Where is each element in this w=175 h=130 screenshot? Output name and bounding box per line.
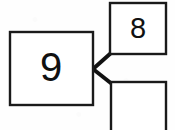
diagram-canvas: 9 8 <box>0 0 175 130</box>
connector-to-bottom-part <box>93 69 112 84</box>
part-box-bottom[interactable] <box>111 82 166 130</box>
part-box-top-value: 8 <box>130 12 146 44</box>
connector-to-top-part <box>93 53 111 69</box>
whole-box-value: 9 <box>40 45 62 89</box>
diagram-svg: 9 8 <box>0 0 175 130</box>
